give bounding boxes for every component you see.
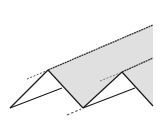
dashed-extension-valley <box>67 109 81 115</box>
left-slope <box>10 70 48 108</box>
inner-base-line-1 <box>10 88 62 108</box>
folded-plate-diagram <box>0 0 162 136</box>
